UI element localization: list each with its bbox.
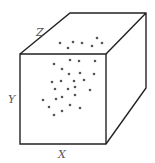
z-axis-label: Z <box>35 26 44 39</box>
data-point <box>61 68 64 71</box>
data-point <box>101 42 104 45</box>
data-point <box>53 114 56 117</box>
data-point <box>42 99 45 102</box>
y-axis-label: Y <box>8 93 17 106</box>
data-point <box>89 89 92 92</box>
data-point <box>68 73 71 76</box>
data-point <box>73 80 76 83</box>
data-point <box>91 45 94 48</box>
data-point <box>51 81 54 84</box>
data-point <box>94 60 97 63</box>
cube-front-face <box>20 54 106 144</box>
data-point <box>72 41 75 44</box>
data-point <box>55 98 58 101</box>
data-point <box>60 80 63 83</box>
cube-diagram: Z Y X <box>0 0 155 163</box>
data-point <box>93 73 96 76</box>
data-point <box>69 104 72 107</box>
data-point <box>79 107 82 110</box>
data-point <box>96 37 99 40</box>
data-point <box>48 106 51 109</box>
data-point <box>59 42 62 45</box>
data-point <box>61 110 64 113</box>
data-point <box>74 94 77 97</box>
data-point <box>79 72 82 75</box>
data-point <box>74 86 77 89</box>
data-point <box>69 59 72 62</box>
x-axis-label: X <box>57 148 67 161</box>
data-point <box>67 88 70 91</box>
data-point <box>67 47 70 50</box>
data-point <box>54 88 57 91</box>
data-point <box>61 96 64 99</box>
data-point <box>78 60 81 63</box>
data-point <box>81 42 84 45</box>
data-point <box>83 79 86 82</box>
data-point <box>53 63 56 66</box>
